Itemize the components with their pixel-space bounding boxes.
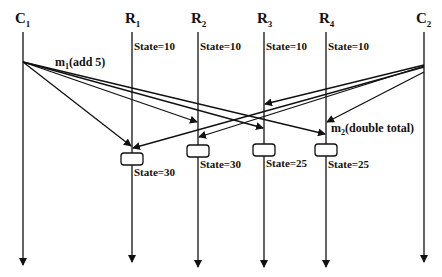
final-state-r3: State=25 <box>266 157 307 169</box>
initial-state-r1: State=10 <box>134 40 175 52</box>
final-state-r1: State=30 <box>134 166 175 178</box>
m2-to-r4 <box>327 72 424 122</box>
final-state-r2: State=30 <box>200 158 241 170</box>
process-label-r3: R3 <box>257 10 272 29</box>
replication-sequence-diagram: C1 R1 R2 R3 R4 C2 State=10 State=10 Stat… <box>0 0 442 277</box>
state-box-r2 <box>187 145 209 157</box>
final-state-r4: State=25 <box>328 158 369 170</box>
initial-state-r3: State=10 <box>266 40 307 52</box>
state-box-r3 <box>253 144 275 156</box>
process-label-r2: R2 <box>191 10 206 29</box>
m1-to-r3 <box>23 62 263 128</box>
initial-state-r4: State=10 <box>328 40 369 52</box>
message-label-m1: m1(add 5) <box>55 55 105 71</box>
state-box-r4 <box>315 144 337 156</box>
process-label-r4: R4 <box>319 10 334 29</box>
process-label-c2: C2 <box>416 10 431 29</box>
m1-to-r2 <box>23 62 197 122</box>
process-label-r1: R1 <box>125 10 140 29</box>
process-label-c1: C1 <box>15 10 30 29</box>
initial-state-r2: State=10 <box>200 40 241 52</box>
message-label-m2: m2(double total) <box>331 121 414 137</box>
state-box-r1 <box>121 153 143 165</box>
